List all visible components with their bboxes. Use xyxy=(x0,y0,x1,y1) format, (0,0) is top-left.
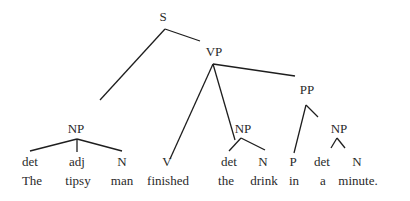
word: a xyxy=(320,174,326,188)
word: man xyxy=(111,174,133,188)
node-pp: PP xyxy=(300,83,314,97)
word: minute. xyxy=(338,174,377,188)
tree-edge xyxy=(213,64,235,140)
pos-tag: V xyxy=(162,155,171,169)
node-np-pp: NP xyxy=(331,122,348,136)
tree-edge xyxy=(100,29,165,100)
node-np-subject: NP xyxy=(68,122,85,136)
tree-edges xyxy=(0,0,410,201)
pos-tag: N xyxy=(117,155,126,169)
tree-edge xyxy=(77,139,122,151)
tree-edge xyxy=(331,138,337,148)
word: in xyxy=(289,174,299,188)
pos-tag: det xyxy=(221,155,237,169)
tree-edge xyxy=(170,64,213,159)
node-vp: VP xyxy=(206,45,223,59)
pos-tag: P xyxy=(289,155,296,169)
tree-edge xyxy=(241,138,265,150)
tree-edge xyxy=(337,138,345,148)
tree-edge xyxy=(213,64,295,76)
word: the xyxy=(218,174,234,188)
tree-edge xyxy=(165,29,200,41)
pos-tag: N xyxy=(352,155,361,169)
pos-tag: det xyxy=(314,155,330,169)
pos-tag: adj xyxy=(69,155,85,169)
tree-edge xyxy=(306,105,318,117)
tree-edge xyxy=(294,105,306,153)
tree-edge xyxy=(30,139,77,151)
syntax-tree: S VP PP NP NP NP det adj N V det N P det… xyxy=(0,0,410,201)
node-np-object: NP xyxy=(235,122,252,136)
word: finished xyxy=(147,174,189,188)
pos-tag: N xyxy=(258,155,267,169)
word: The xyxy=(22,174,42,188)
word: tipsy xyxy=(65,174,90,188)
word: drink xyxy=(250,174,277,188)
node-s: S xyxy=(159,10,166,24)
pos-tag: det xyxy=(22,155,38,169)
